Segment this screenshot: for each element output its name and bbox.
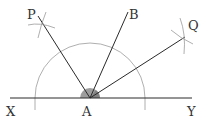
label-a: A <box>81 104 92 117</box>
ray-ap <box>38 16 90 98</box>
label-y: Y <box>186 104 196 117</box>
construction-mark-q2 <box>180 18 185 54</box>
ray-ab <box>90 12 128 98</box>
construction-diagram: P B Q X A Y <box>0 0 201 117</box>
ray-aq <box>90 37 185 98</box>
diagram-canvas: P B Q X A Y <box>0 0 201 117</box>
label-p: P <box>27 7 36 22</box>
label-q: Q <box>188 18 199 33</box>
label-x: X <box>6 104 16 117</box>
construction-arc <box>35 43 145 110</box>
label-b: B <box>129 7 139 22</box>
